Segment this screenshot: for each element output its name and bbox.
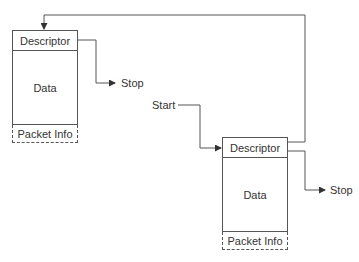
packet1-packet-info: Packet Info bbox=[12, 125, 78, 143]
packet1-packet-info-label: Packet Info bbox=[17, 128, 72, 140]
packet2-descriptor-label: Descriptor bbox=[230, 142, 280, 154]
packet2-data: Data bbox=[222, 158, 288, 232]
packet2-packet-info-label: Packet Info bbox=[227, 235, 282, 247]
packet2-packet-info: Packet Info bbox=[222, 232, 288, 250]
next-descriptor-link bbox=[44, 15, 305, 142]
packet2-descriptor: Descriptor bbox=[222, 137, 288, 158]
start-label: Start bbox=[152, 99, 175, 111]
packet1-data-label: Data bbox=[33, 82, 56, 94]
packet2-data-label: Data bbox=[243, 189, 266, 201]
stop-label-2: Stop bbox=[330, 184, 353, 196]
stop-label-1: Stop bbox=[121, 77, 144, 89]
stop-link-1 bbox=[77, 40, 115, 83]
stop-link-2 bbox=[287, 151, 325, 190]
packet1-data: Data bbox=[12, 51, 78, 125]
packet1-descriptor-label: Descriptor bbox=[20, 35, 70, 47]
packet1-descriptor: Descriptor bbox=[12, 30, 78, 51]
start-link bbox=[178, 105, 221, 148]
